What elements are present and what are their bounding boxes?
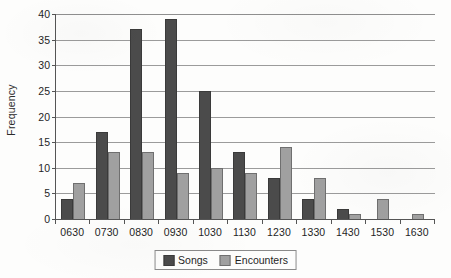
x-axis-tick-mark — [331, 219, 332, 224]
x-axis-tick-mark — [158, 219, 159, 224]
x-axis-tick-mark — [89, 219, 90, 224]
y-axis-tick-label: 0 — [44, 213, 50, 225]
plot-area: 0510152025303540 — [55, 14, 434, 219]
bar-group — [159, 14, 193, 219]
bar-group — [228, 14, 262, 219]
bar-group — [263, 14, 297, 219]
bar-group — [90, 14, 124, 219]
x-axis: 0630073008300930103011301230133014301530… — [55, 219, 434, 245]
x-axis-label-0830: 0830 — [124, 226, 158, 238]
bar-group — [194, 14, 228, 219]
y-axis-title: Frequency — [2, 0, 20, 219]
y-axis-tick-label: 15 — [38, 136, 50, 148]
x-axis-tick-mark — [55, 219, 56, 224]
bar-group — [401, 14, 435, 219]
legend-label-encounters: Encounters — [235, 254, 288, 266]
x-axis-tick-mark — [365, 219, 366, 224]
x-axis-label-1630: 1630 — [400, 226, 434, 238]
bar-songs-0630 — [61, 199, 73, 220]
x-axis-tick-mark — [400, 219, 401, 224]
bar-group — [56, 14, 90, 219]
x-axis-tick-mark — [262, 219, 263, 224]
x-axis-tick-mark — [227, 219, 228, 224]
bar-group — [125, 14, 159, 219]
x-axis-label-1530: 1530 — [365, 226, 399, 238]
y-axis-tick-label: 10 — [38, 162, 50, 174]
bar-group — [297, 14, 331, 219]
bar-groups — [56, 14, 435, 219]
y-axis-tick-label: 35 — [38, 34, 50, 46]
legend-swatch-encounters — [220, 255, 231, 266]
x-axis-label-0630: 0630 — [55, 226, 89, 238]
y-axis-tick-label: 20 — [38, 111, 50, 123]
bar-songs-1430 — [337, 209, 349, 219]
chart-legend: SongsEncounters — [154, 250, 297, 270]
bar-songs-0930 — [165, 19, 177, 219]
bar-encounters-0830 — [142, 152, 154, 219]
bar-songs-1330 — [302, 199, 314, 220]
x-axis-label-1130: 1130 — [227, 226, 261, 238]
x-axis-label-1330: 1330 — [296, 226, 330, 238]
x-axis-labels: 0630073008300930103011301230133014301530… — [55, 226, 434, 238]
bar-encounters-1230 — [280, 147, 292, 219]
bar-encounters-1530 — [377, 199, 389, 220]
bar-group — [332, 14, 366, 219]
x-axis-tick-mark — [434, 219, 435, 224]
bar-encounters-1030 — [211, 168, 223, 219]
bar-songs-1030 — [199, 91, 211, 219]
bar-group — [366, 14, 400, 219]
x-axis-label-1030: 1030 — [193, 226, 227, 238]
y-axis-tick-label: 25 — [38, 85, 50, 97]
x-axis-tick-mark — [193, 219, 194, 224]
x-axis-tick-mark — [124, 219, 125, 224]
bar-songs-0730 — [96, 132, 108, 219]
bar-songs-1230 — [268, 178, 280, 219]
y-axis-tick-label: 40 — [38, 8, 50, 20]
legend-item-encounters[interactable]: Encounters — [220, 254, 288, 266]
x-axis-label-1230: 1230 — [262, 226, 296, 238]
legend-swatch-songs — [163, 255, 174, 266]
legend-item-songs[interactable]: Songs — [163, 254, 208, 266]
y-axis-tick-label: 5 — [44, 187, 50, 199]
bar-songs-1130 — [233, 152, 245, 219]
bar-encounters-1130 — [245, 173, 257, 219]
bar-chart-figure: Frequency 0510152025303540 0630073008300… — [0, 0, 451, 278]
bar-encounters-0730 — [108, 152, 120, 219]
x-axis-label-0930: 0930 — [158, 226, 192, 238]
legend-label-songs: Songs — [178, 254, 208, 266]
bar-encounters-0930 — [177, 173, 189, 219]
bar-encounters-1330 — [314, 178, 326, 219]
bar-songs-0830 — [130, 29, 142, 219]
x-axis-label-0730: 0730 — [89, 226, 123, 238]
x-axis-tick-mark — [296, 219, 297, 224]
x-axis-label-1430: 1430 — [331, 226, 365, 238]
y-axis-title-text: Frequency — [5, 84, 17, 135]
y-axis-tick-label: 30 — [38, 59, 50, 71]
bar-encounters-0630 — [73, 183, 85, 219]
